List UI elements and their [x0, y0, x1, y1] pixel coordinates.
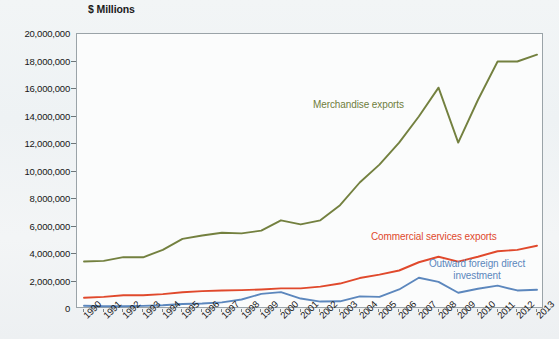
y-tick-label: 18,000,000	[0, 55, 70, 66]
y-tick-label: 4,000,000	[0, 248, 70, 259]
series-label-outward-fdi-line1: Outward foreign direct	[429, 258, 525, 269]
series-label-outward-fdi: Outward foreign direct investment	[425, 258, 529, 282]
series-label-merchandise-exports: Merchandise exports	[313, 99, 404, 111]
series-label-outward-fdi-line2: investment	[453, 270, 500, 281]
y-axis-title: $ Millions	[88, 3, 135, 15]
y-tick-label: 0	[0, 303, 70, 314]
y-tick-label: 8,000,000	[0, 193, 70, 204]
y-tick-label: 14,000,000	[0, 110, 70, 121]
y-tick-label: 16,000,000	[0, 83, 70, 94]
y-tick-label: 10,000,000	[0, 165, 70, 176]
y-tick-label: 2,000,000	[0, 275, 70, 286]
series-label-commercial-services-exports: Commercial services exports	[371, 231, 497, 243]
y-tick-label: 6,000,000	[0, 220, 70, 231]
chart-figure: $ Millions 20,000,00018,000,00016,000,00…	[0, 0, 559, 339]
y-axis-tick-labels: 20,000,00018,000,00016,000,00014,000,000…	[0, 33, 70, 308]
x-axis-tick-labels: 1990199119921993199419951996199719981999…	[76, 309, 543, 339]
y-tick-label: 20,000,000	[0, 28, 70, 39]
y-tick-label: 12,000,000	[0, 138, 70, 149]
